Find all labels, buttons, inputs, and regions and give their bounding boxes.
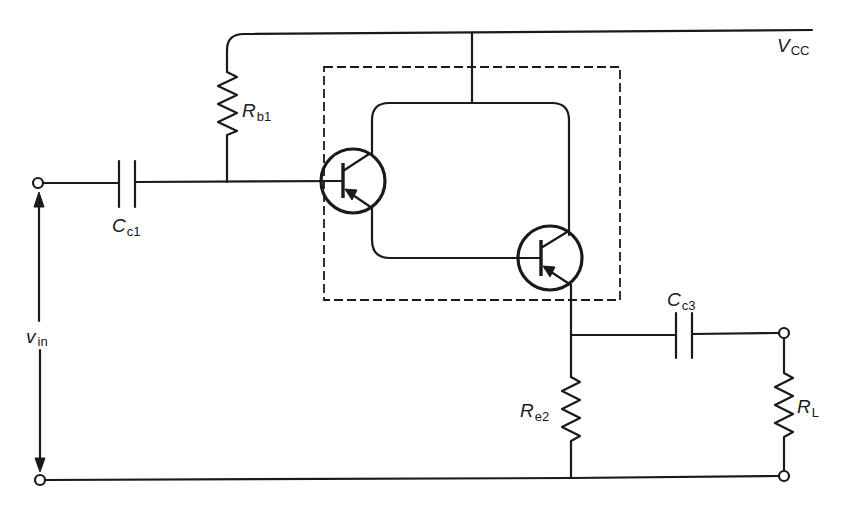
- vcc-rail: [227, 30, 812, 72]
- q1-emitter-to-q2-base: [372, 208, 540, 258]
- output-wire-right: [692, 333, 779, 334]
- output-terminal-top: [779, 328, 789, 338]
- vin-label: vin: [26, 326, 48, 349]
- circuit-diagram: VCC Rb1 Cc1 Cc3: [0, 0, 850, 510]
- arrow-up-icon: [34, 192, 44, 207]
- input-terminal-top: [33, 178, 43, 188]
- rb1-label: Rb1: [242, 100, 271, 124]
- cc3-label: Cc3: [667, 289, 695, 313]
- resistor-rl: RL: [775, 338, 819, 471]
- emitter-arrow-icon: [345, 189, 357, 200]
- capacitor-cc1: Cc1: [112, 161, 140, 239]
- vcc-label: VCC: [777, 35, 809, 58]
- output-terminal-bottom: [779, 471, 789, 481]
- capacitor-cc3: Cc3: [667, 289, 695, 358]
- arrow-down-icon: [35, 458, 45, 472]
- input-terminal-bottom: [35, 475, 45, 485]
- re2-label: Re2: [520, 400, 549, 424]
- ground-rail: [45, 476, 779, 480]
- emitter-arrow-icon: [543, 266, 555, 277]
- base-wire-q1: [135, 181, 343, 182]
- vin-indicator: vin: [26, 192, 48, 472]
- collector-loop: [372, 103, 569, 235]
- resistor-re2: Re2: [520, 377, 580, 478]
- rl-label: RL: [797, 396, 819, 420]
- cc1-label: Cc1: [112, 215, 140, 239]
- resistor-rb1: Rb1: [218, 72, 271, 182]
